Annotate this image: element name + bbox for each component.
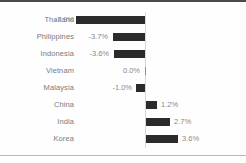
value-label-vietnam: 0.0% xyxy=(112,66,140,76)
bar-malaysia xyxy=(136,84,145,92)
bar-korea xyxy=(146,135,178,143)
bar-china xyxy=(146,101,157,109)
category-label-korea: Korea xyxy=(6,134,74,144)
value-label-korea: 3.6% xyxy=(182,134,212,144)
bar-row-philippines: Philippines -3.7% xyxy=(0,29,246,46)
category-label-indonesia: Indonesia xyxy=(6,49,74,59)
category-label-vietnam: Vietnam xyxy=(6,66,74,76)
bar-row-india: India 2.7% xyxy=(0,114,246,131)
category-label-philippines: Philippines xyxy=(6,32,74,42)
bar-philippines xyxy=(113,33,145,41)
category-label-india: India xyxy=(6,117,74,127)
category-label-malaysia: Malaysia xyxy=(6,83,74,93)
plot-area: Thailand -7.9% Philippines -3.7% Indones… xyxy=(0,3,246,154)
bar-indonesia xyxy=(114,50,145,58)
bar-row-china: China 1.2% xyxy=(0,97,246,114)
bar-vietnam xyxy=(145,67,146,75)
bar-row-korea: Korea 3.6% xyxy=(0,131,246,148)
chart-container: Thailand -7.9% Philippines -3.7% Indones… xyxy=(0,0,246,163)
top-border-band xyxy=(0,0,246,2)
value-label-malaysia: -1.0% xyxy=(104,83,132,93)
value-label-china: 1.2% xyxy=(161,100,191,110)
value-label-india: 2.7% xyxy=(174,117,204,127)
value-label-indonesia: -3.6% xyxy=(81,49,109,59)
value-label-thailand: -7.9% xyxy=(46,15,74,25)
bar-row-thailand: Thailand -7.9% xyxy=(0,12,246,29)
bar-row-indonesia: Indonesia -3.6% xyxy=(0,46,246,63)
value-label-philippines: -3.7% xyxy=(80,32,108,42)
bar-india xyxy=(146,118,170,126)
category-label-china: China xyxy=(6,100,74,110)
bottom-divider-rule xyxy=(0,155,246,156)
bar-row-vietnam: Vietnam 0.0% xyxy=(0,63,246,80)
bar-thailand xyxy=(76,16,145,24)
bar-row-malaysia: Malaysia -1.0% xyxy=(0,80,246,97)
